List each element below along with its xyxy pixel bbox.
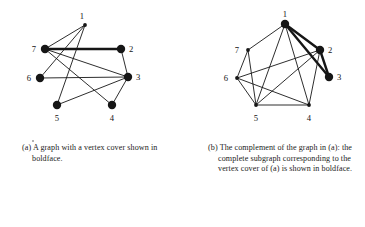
graph-edge-6-5 bbox=[237, 78, 256, 105]
graph-edge-2-3 bbox=[121, 49, 128, 77]
figure-panel-a: 1234567 (a) A graph with a vertex cover … bbox=[0, 0, 182, 227]
vertex-label-1: 1 bbox=[283, 9, 287, 19]
vertex-label-4: 4 bbox=[307, 113, 312, 123]
graph-vertex-2 bbox=[117, 45, 125, 53]
graph-edge-7-3 bbox=[45, 49, 128, 77]
graph-vertex-2 bbox=[316, 46, 324, 54]
page-speck bbox=[32, 140, 34, 142]
vertex-label-1: 1 bbox=[80, 11, 84, 21]
graph-edge-3-4 bbox=[112, 77, 128, 105]
graph-vertex-5 bbox=[53, 101, 61, 109]
graph-edge-2-6 bbox=[237, 50, 320, 78]
vertex-label-5: 5 bbox=[55, 113, 59, 123]
graph-vertex-1 bbox=[281, 20, 289, 28]
vertex-label-6: 6 bbox=[224, 73, 229, 83]
graph-edge-3-6 bbox=[40, 77, 128, 78]
graph-edge-6-4 bbox=[237, 78, 309, 105]
caption-a: (a) A graph with a vertex cover shown in… bbox=[22, 143, 182, 164]
graph-vertex-3 bbox=[124, 73, 132, 81]
graph-a-diagram: 1234567 bbox=[0, 0, 182, 132]
graph-edge-1-7 bbox=[248, 24, 285, 50]
vertex-label-3: 3 bbox=[337, 72, 341, 82]
graph-vertex-6 bbox=[36, 74, 44, 82]
figure-container: 1234567 (a) A graph with a vertex cover … bbox=[0, 0, 365, 227]
graph-vertex-6 bbox=[235, 76, 239, 80]
graph-edge-1-7 bbox=[45, 25, 85, 49]
graph-vertex-4 bbox=[108, 101, 116, 109]
vertex-label-2: 2 bbox=[129, 44, 133, 54]
graph-edge-7-5 bbox=[248, 50, 256, 105]
caption-b: (b) The complement of the graph in (a): … bbox=[208, 143, 365, 175]
graph-b-diagram: 1234567 bbox=[183, 0, 365, 132]
figure-panel-b: 1234567 (b) The complement of the graph … bbox=[183, 0, 365, 227]
graph-edge-1-5 bbox=[57, 25, 85, 105]
graph-vertex-3 bbox=[325, 73, 333, 81]
graph-vertex-1 bbox=[83, 23, 87, 27]
graph-vertex-7 bbox=[246, 48, 250, 52]
vertex-label-6: 6 bbox=[27, 73, 32, 83]
graph-vertex-4 bbox=[307, 103, 311, 107]
vertex-label-3: 3 bbox=[136, 72, 140, 82]
graph-vertex-5 bbox=[254, 103, 258, 107]
graph-vertex-7 bbox=[41, 45, 49, 53]
vertex-label-2: 2 bbox=[328, 45, 332, 55]
vertex-label-4: 4 bbox=[110, 113, 115, 123]
vertex-label-7: 7 bbox=[235, 45, 240, 55]
graph-edge-1-4 bbox=[285, 24, 309, 105]
vertex-label-5: 5 bbox=[254, 113, 258, 123]
graph-edge-3-5 bbox=[57, 77, 128, 105]
vertex-label-7: 7 bbox=[32, 44, 37, 54]
